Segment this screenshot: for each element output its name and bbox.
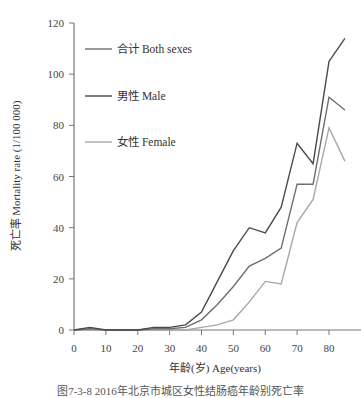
series-line-both [74, 97, 345, 330]
y-tick-label: 120 [48, 17, 65, 29]
y-tick-label: 20 [53, 273, 65, 285]
x-tick-label: 30 [164, 342, 176, 354]
x-tick-label: 40 [196, 342, 208, 354]
x-tick-label: 20 [132, 342, 144, 354]
x-tick-label: 50 [228, 342, 240, 354]
y-tick-label: 100 [48, 68, 65, 80]
legend-label: 合计 Both sexes [117, 42, 193, 55]
y-tick-label: 80 [53, 119, 65, 131]
legend: 合计 Both sexes男性 Male女性 Female [85, 42, 193, 148]
y-axis-title: 死亡率 Mortality rate (1/100 000) [9, 100, 23, 251]
y-tick-label: 60 [53, 171, 65, 183]
x-tick-label: 80 [324, 342, 336, 354]
y-tick-label: 0 [59, 324, 65, 336]
y-tick-label: 40 [53, 222, 65, 234]
x-tick-label: 10 [100, 342, 112, 354]
x-tick-label: 0 [71, 342, 77, 354]
legend-label: 女性 Female [117, 135, 176, 148]
legend-label: 男性 Male [117, 89, 166, 102]
series-layer [74, 38, 345, 330]
figure-caption: 图7-3-8 2016年北京市城区女性结肠癌年龄别死亡率 [0, 382, 361, 398]
x-axis-title: 年龄(岁) Age(years) [169, 361, 261, 375]
x-tick-label: 60 [260, 342, 272, 354]
x-tick-label: 70 [292, 342, 304, 354]
x-axis: 01020304050607080 [71, 330, 361, 354]
series-line-female [74, 128, 345, 330]
y-axis: 020406080100120 [48, 17, 75, 336]
